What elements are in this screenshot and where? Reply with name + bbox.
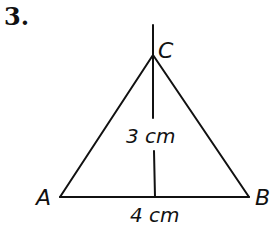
base-label: 4 cm — [130, 203, 180, 227]
height-label: 3 cm — [126, 124, 176, 148]
vertex-label-c: C — [158, 38, 174, 63]
vertex-label-b: B — [255, 185, 270, 210]
triangle-diagram: C A B 3 cm 4 cm — [0, 0, 278, 235]
vertex-label-a: A — [34, 185, 51, 210]
altitude-lower — [154, 151, 155, 197]
